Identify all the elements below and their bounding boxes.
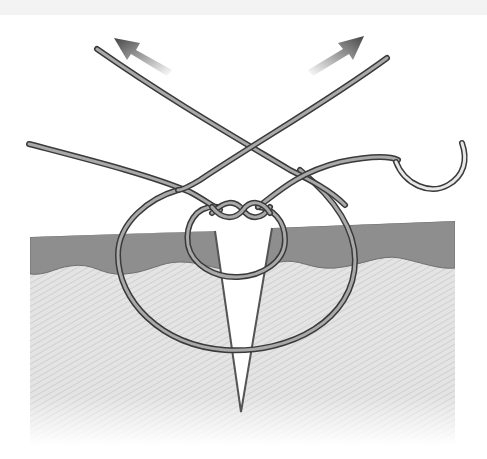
arrow-pull-right-icon [308,36,364,76]
needle [396,143,465,189]
strand-to-needle [97,49,345,205]
suture-diagram [0,0,487,459]
arrow-pull-left-icon [114,38,172,76]
skin [30,220,455,445]
left-tail [29,144,220,210]
